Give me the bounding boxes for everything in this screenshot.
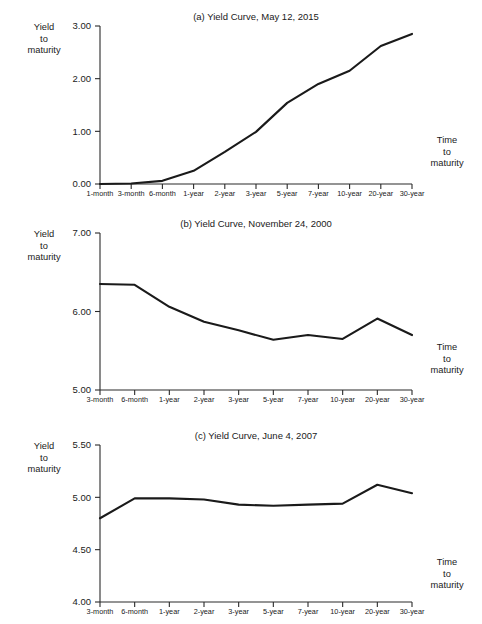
x-tick-label-b-2: 1-year [159, 395, 180, 404]
x-tick-label-a-0: 1-month [87, 189, 114, 198]
x-tick-label-c-0: 3-month [87, 607, 114, 616]
x-axis-caption-line-b-2: maturity [430, 365, 463, 375]
y-axis-caption-line-c-1: to [40, 453, 48, 463]
chart-b-svg: (b) Yield Curve, November 24, 20005.006.… [0, 205, 482, 417]
x-axis-caption-line-c-1: to [443, 569, 451, 579]
y-tick-label-b-2: 7.00 [73, 227, 92, 238]
y-tick-label-c-3: 5.50 [73, 439, 92, 450]
x-tick-label-a-4: 2-year [214, 189, 235, 198]
yield-curve-figure: (a) Yield Curve, May 12, 20150.001.002.0… [0, 0, 482, 624]
y-tick-label-a-3: 3.00 [73, 20, 92, 31]
x-tick-label-b-4: 3-year [228, 395, 249, 404]
x-tick-label-a-2: 6-month [149, 189, 176, 198]
chart-a-svg: (a) Yield Curve, May 12, 20150.001.002.0… [0, 0, 482, 205]
y-tick-label-c-2: 5.00 [73, 492, 92, 503]
x-tick-label-c-4: 3-year [228, 607, 249, 616]
x-tick-label-b-5: 5-year [263, 395, 284, 404]
x-tick-label-b-1: 6-month [121, 395, 148, 404]
series-line-c [100, 485, 412, 519]
chart-c-svg: (c) Yield Curve, June 4, 20074.004.505.0… [0, 417, 482, 624]
y-tick-label-b-0: 5.00 [73, 384, 92, 395]
x-tick-label-a-6: 5-year [277, 189, 298, 198]
y-tick-label-a-1: 1.00 [73, 126, 92, 137]
y-tick-label-c-0: 4.00 [73, 596, 92, 607]
x-tick-label-a-5: 3-year [246, 189, 267, 198]
series-line-b [100, 284, 412, 340]
x-axis-caption-line-b-1: to [443, 354, 451, 364]
x-tick-label-a-1: 3-month [118, 189, 145, 198]
y-axis-caption-line-b-2: maturity [27, 252, 60, 262]
y-tick-label-a-0: 0.00 [73, 178, 92, 189]
x-tick-label-a-9: 20-year [368, 189, 393, 198]
x-tick-label-c-7: 10-year [330, 607, 355, 616]
x-axis-caption-line-b-0: Time [437, 342, 457, 352]
x-tick-label-c-1: 6-month [121, 607, 148, 616]
series-line-a [100, 34, 412, 184]
y-tick-label-a-2: 2.00 [73, 73, 92, 84]
y-tick-label-c-1: 4.50 [73, 544, 92, 555]
x-tick-label-b-8: 20-year [365, 395, 390, 404]
chart-panel-a: (a) Yield Curve, May 12, 20150.001.002.0… [0, 0, 482, 205]
y-tick-label-b-1: 6.00 [73, 306, 92, 317]
x-tick-label-b-3: 2-year [194, 395, 215, 404]
x-tick-label-b-7: 10-year [330, 395, 355, 404]
x-axis-caption-line-c-2: maturity [430, 580, 463, 590]
x-tick-label-c-8: 20-year [365, 607, 390, 616]
y-axis-caption-line-a-1: to [40, 34, 48, 44]
y-axis-caption-line-c-0: Yield [34, 441, 54, 451]
chart-title-c: (c) Yield Curve, June 4, 2007 [195, 430, 318, 441]
x-axis-caption-line-a-0: Time [437, 135, 457, 145]
x-tick-label-c-6: 7-year [298, 607, 319, 616]
x-tick-label-b-0: 3-month [87, 395, 114, 404]
y-axis-caption-line-a-0: Yield [34, 22, 54, 32]
x-axis-caption-line-a-1: to [443, 147, 451, 157]
x-tick-label-c-5: 5-year [263, 607, 284, 616]
chart-panel-b: (b) Yield Curve, November 24, 20005.006.… [0, 205, 482, 417]
x-tick-label-a-8: 10-year [337, 189, 362, 198]
x-axis-caption-line-c-0: Time [437, 557, 457, 567]
x-tick-label-a-10: 30-year [400, 189, 425, 198]
x-axis-caption-line-a-2: maturity [430, 158, 463, 168]
y-axis-caption-line-b-0: Yield [34, 229, 54, 239]
x-tick-label-b-6: 7-year [298, 395, 319, 404]
y-axis-caption-line-a-2: maturity [27, 45, 60, 55]
chart-title-b: (b) Yield Curve, November 24, 2000 [180, 218, 332, 229]
x-tick-label-c-3: 2-year [194, 607, 215, 616]
chart-panel-c: (c) Yield Curve, June 4, 20074.004.505.0… [0, 417, 482, 624]
chart-title-a: (a) Yield Curve, May 12, 2015 [193, 11, 319, 22]
y-axis-caption-line-b-1: to [40, 241, 48, 251]
x-tick-label-a-3: 1-year [183, 189, 204, 198]
x-tick-label-c-9: 30-year [400, 607, 425, 616]
x-tick-label-c-2: 1-year [159, 607, 180, 616]
y-axis-caption-line-c-2: maturity [27, 464, 60, 474]
x-tick-label-b-9: 30-year [400, 395, 425, 404]
x-tick-label-a-7: 7-year [308, 189, 329, 198]
